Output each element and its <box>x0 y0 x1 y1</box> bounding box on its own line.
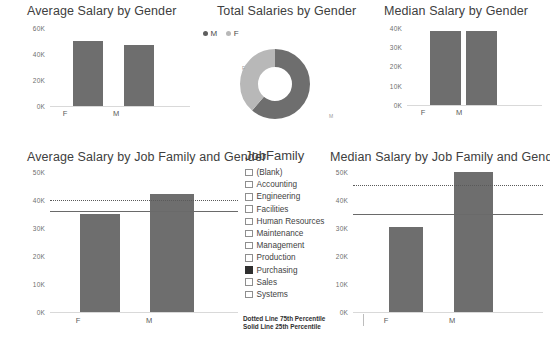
y-tick-0k: 0K <box>27 103 45 110</box>
bar-m[interactable] <box>124 45 154 106</box>
slicer-item-label: (Blank) <box>257 167 283 178</box>
bar-f[interactable] <box>389 227 423 312</box>
legend: M F <box>203 29 239 38</box>
slicer-item-list: (Blank) Accounting Engineering Facilitie… <box>245 167 340 300</box>
x-axis-line <box>50 106 190 107</box>
slicer-item-engineering[interactable]: Engineering <box>245 191 340 202</box>
x-tick-m: M <box>105 109 127 118</box>
slicer-item-maintenance[interactable]: Maintenance <box>245 228 340 239</box>
checkbox-icon[interactable] <box>245 291 253 299</box>
checkbox-icon[interactable] <box>245 218 253 226</box>
footnote-line-2: Solid Line 25th Percentile <box>243 323 325 331</box>
chart-title: Median Salary by Gender <box>384 4 544 18</box>
slicer-item-accounting[interactable]: Accounting <box>245 179 340 190</box>
percentile-legend-note: Dotted Line 75th Percentile Solid Line 2… <box>243 315 325 332</box>
slicer-item-label: Engineering <box>257 191 301 202</box>
slicer-item-production[interactable]: Production <box>245 252 340 263</box>
chart-title: Total Salaries by Gender <box>217 4 356 18</box>
y-tick-30k: 30K <box>384 44 402 51</box>
checkbox-icon[interactable] <box>245 230 253 238</box>
checkbox-icon[interactable] <box>245 181 253 189</box>
chart-title: Average Salary by Gender <box>27 4 197 18</box>
slicer-item-purchasing[interactable]: Purchasing <box>245 265 340 276</box>
slicer-item-label: Maintenance <box>257 228 304 239</box>
bar-f[interactable] <box>73 41 103 106</box>
plot-area: 60K 40K 20K 0K F M <box>27 28 197 116</box>
y-tick-10k: 10K <box>27 281 45 288</box>
y-tick-50k: 50K <box>330 169 348 176</box>
bar-f[interactable] <box>80 214 120 312</box>
slicer-item-blank[interactable]: (Blank) <box>245 167 340 178</box>
x-axis-line <box>407 105 542 106</box>
y-tick-0k: 0K <box>384 102 402 109</box>
footnote-line-1: Dotted Line 75th Percentile <box>243 315 325 323</box>
checkbox-icon[interactable] <box>245 254 253 262</box>
chart-median-salary-by-job-family-and-gender: Median Salary by Job Family and Gender 5… <box>330 150 545 335</box>
slicer-item-label: Sales <box>257 277 277 288</box>
bar-f[interactable] <box>430 31 461 105</box>
y-tick-20k: 20K <box>384 63 402 70</box>
donut-svg <box>239 48 311 120</box>
slicer-item-label: Production <box>257 252 296 263</box>
donut-label-m: M <box>329 113 333 119</box>
x-tick-f: F <box>67 316 89 325</box>
x-tick-m: M <box>441 316 463 325</box>
y-tick-30k: 30K <box>330 225 348 232</box>
checkbox-icon[interactable] <box>245 193 253 201</box>
slicer-item-label: Accounting <box>257 179 298 190</box>
legend-swatch-f-icon <box>226 31 231 36</box>
slicer-item-management[interactable]: Management <box>245 240 340 251</box>
legend-label-m: M <box>211 29 218 38</box>
reference-line-75th-percentile <box>353 185 543 186</box>
slicer-item-label: Management <box>257 240 305 251</box>
y-tick-0k: 0K <box>27 309 45 316</box>
x-axis-line <box>353 312 543 313</box>
bar-m[interactable] <box>466 31 497 105</box>
chart-title: Median Salary by Job Family and Gender <box>330 150 545 164</box>
y-tick-20k: 20K <box>27 77 45 84</box>
legend-swatch-m-icon <box>203 31 208 36</box>
y-tick-40k: 40K <box>384 25 402 32</box>
y-tick-40k: 40K <box>27 197 45 204</box>
plot-area: 50K 40K 30K 20K 10K 0K F M <box>27 172 242 327</box>
reference-line-75th-percentile <box>50 200 238 201</box>
x-tick-f: F <box>375 316 397 325</box>
checkbox-icon[interactable] <box>245 278 253 286</box>
slicer-item-facilities[interactable]: Facilities <box>245 204 340 215</box>
plot-area: 50K 40K 30K 20K 10K 0K F M <box>330 172 545 327</box>
y-tick-30k: 30K <box>27 225 45 232</box>
chart-average-salary-by-gender: Average Salary by Gender 60K 40K 20K 0K … <box>27 4 197 129</box>
chart-average-salary-by-job-family-and-gender: Average Salary by Job Family and Gender … <box>27 150 242 335</box>
y-tick-60k: 60K <box>27 25 45 32</box>
chart-total-salaries-by-gender: Total Salaries by Gender M F F M <box>200 4 350 132</box>
y-tick-0k: 0K <box>330 309 348 316</box>
slicer-title: JobFamily <box>245 148 340 163</box>
y-tick-10k: 10K <box>384 83 402 90</box>
slicer-item-human-resources[interactable]: Human Resources <box>245 216 340 227</box>
y-tick-50k: 50K <box>27 169 45 176</box>
checkbox-checked-icon[interactable] <box>245 266 253 274</box>
plot-area: 40K 30K 20K 10K 0K F M <box>384 28 544 116</box>
legend-item-m[interactable]: M <box>203 29 217 38</box>
checkbox-icon[interactable] <box>245 169 253 177</box>
y-tick-20k: 20K <box>27 253 45 260</box>
x-axis-line <box>50 312 238 313</box>
slicer-jobfamily[interactable]: JobFamily (Blank) Accounting Engineering… <box>245 148 340 318</box>
reference-line-25th-percentile <box>50 211 238 212</box>
slicer-item-label: Human Resources <box>257 216 325 227</box>
x-tick-m: M <box>448 108 470 117</box>
y-tick-10k: 10K <box>330 281 348 288</box>
legend-label-f: F <box>234 29 239 38</box>
slicer-item-systems[interactable]: Systems <box>245 289 340 300</box>
slicer-item-label: Facilities <box>257 204 289 215</box>
checkbox-icon[interactable] <box>245 242 253 250</box>
slicer-item-sales[interactable]: Sales <box>245 277 340 288</box>
legend-item-f[interactable]: F <box>226 29 238 38</box>
chart-median-salary-by-gender: Median Salary by Gender 40K 30K 20K 10K … <box>384 4 544 129</box>
checkbox-icon[interactable] <box>245 205 253 213</box>
chart-title: Average Salary by Job Family and Gender <box>27 150 242 164</box>
bar-m[interactable] <box>454 172 493 312</box>
donut-label-f: F <box>242 65 245 71</box>
slicer-item-label: Systems <box>257 289 288 300</box>
donut-chart[interactable] <box>239 48 311 120</box>
